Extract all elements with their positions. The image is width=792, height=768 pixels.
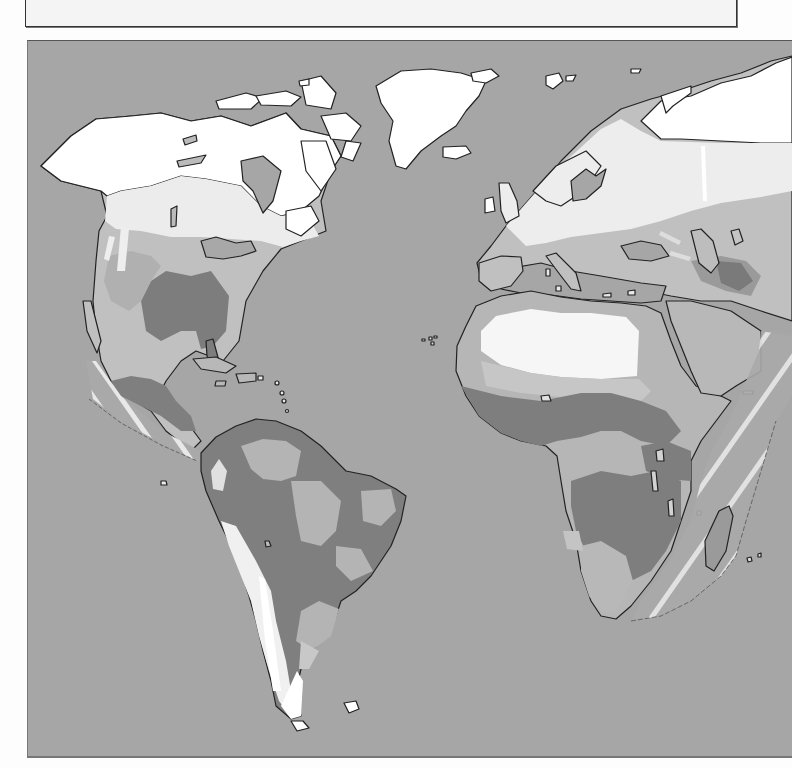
- north-america: [41, 113, 341, 451]
- caption-box: [25, 0, 737, 27]
- world-vegetation-map: [27, 40, 792, 758]
- eurasia: [471, 56, 792, 321]
- canary-islands: [422, 336, 437, 345]
- caribbean-islands: [193, 357, 289, 413]
- south-america: [161, 419, 406, 731]
